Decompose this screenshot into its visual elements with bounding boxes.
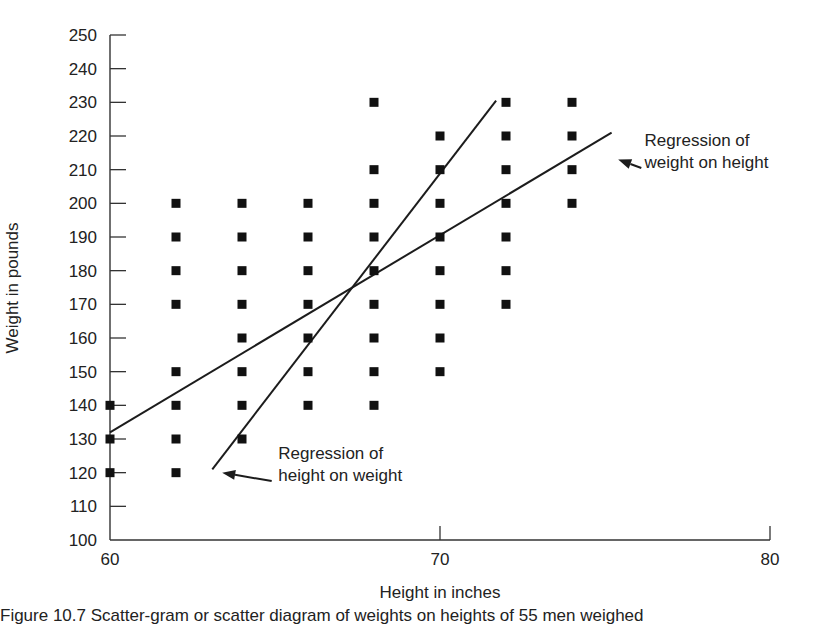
data-point bbox=[304, 401, 313, 410]
data-point bbox=[502, 199, 511, 208]
y-tick-label: 100 bbox=[69, 531, 97, 550]
regression-line bbox=[110, 133, 612, 433]
data-point bbox=[238, 334, 247, 343]
data-point bbox=[502, 165, 511, 174]
data-point bbox=[436, 199, 445, 208]
data-point bbox=[304, 300, 313, 309]
data-point bbox=[370, 300, 379, 309]
y-tick-label: 250 bbox=[69, 26, 97, 45]
data-point bbox=[370, 98, 379, 107]
data-point bbox=[502, 266, 511, 275]
y-tick-label: 180 bbox=[69, 262, 97, 281]
data-point bbox=[370, 266, 379, 275]
data-point bbox=[172, 435, 181, 444]
regression-lines bbox=[110, 101, 612, 470]
y-tick-label: 190 bbox=[69, 228, 97, 247]
data-point bbox=[172, 367, 181, 376]
data-point bbox=[370, 233, 379, 242]
y-tick-label: 170 bbox=[69, 295, 97, 314]
annotation-arrow bbox=[630, 164, 641, 168]
data-point bbox=[436, 165, 445, 174]
data-point bbox=[436, 300, 445, 309]
data-point bbox=[304, 199, 313, 208]
data-point bbox=[436, 367, 445, 376]
x-tick-label: 60 bbox=[101, 550, 120, 569]
y-tick-label: 200 bbox=[69, 194, 97, 213]
x-tick-label: 80 bbox=[761, 550, 780, 569]
data-point bbox=[370, 165, 379, 174]
data-point bbox=[172, 468, 181, 477]
data-point bbox=[502, 300, 511, 309]
y-tick-label: 230 bbox=[69, 93, 97, 112]
data-point bbox=[304, 233, 313, 242]
y-tick-label: 210 bbox=[69, 161, 97, 180]
annotation-label: weight on height bbox=[644, 153, 769, 172]
data-point bbox=[370, 401, 379, 410]
arrowhead-icon bbox=[618, 159, 632, 168]
y-tick-label: 160 bbox=[69, 329, 97, 348]
y-tick-label: 240 bbox=[69, 60, 97, 79]
annotation-label: Regression of bbox=[645, 131, 750, 150]
data-point bbox=[370, 367, 379, 376]
data-point bbox=[502, 132, 511, 141]
annotation-arrow bbox=[235, 475, 272, 481]
data-point bbox=[238, 367, 247, 376]
y-tick-label: 130 bbox=[69, 430, 97, 449]
x-axis-title: Height in inches bbox=[380, 583, 501, 602]
data-point bbox=[172, 266, 181, 275]
data-point bbox=[568, 132, 577, 141]
data-point bbox=[370, 199, 379, 208]
annotation-label: height on weight bbox=[278, 466, 402, 485]
data-point bbox=[502, 98, 511, 107]
regression-line bbox=[212, 101, 496, 470]
data-point bbox=[436, 233, 445, 242]
data-point bbox=[238, 435, 247, 444]
data-point bbox=[238, 266, 247, 275]
data-point bbox=[106, 401, 115, 410]
data-point bbox=[436, 132, 445, 141]
data-point bbox=[568, 165, 577, 174]
data-point bbox=[238, 300, 247, 309]
y-tick-label: 110 bbox=[70, 497, 97, 516]
scatter-chart: 1001101201301401501601701801902002102202… bbox=[0, 0, 814, 606]
y-axis-title: Weight in pounds bbox=[3, 222, 22, 353]
data-point bbox=[172, 401, 181, 410]
figure-caption: Figure 10.7 Scatter-gram or scatter diag… bbox=[0, 606, 814, 627]
y-tick-label: 150 bbox=[69, 363, 97, 382]
data-point bbox=[436, 334, 445, 343]
arrowhead-icon bbox=[222, 470, 236, 480]
x-tick-label: 70 bbox=[431, 550, 450, 569]
data-point bbox=[370, 334, 379, 343]
annotation-label: Regression of bbox=[278, 444, 383, 463]
data-point bbox=[172, 199, 181, 208]
data-point bbox=[106, 468, 115, 477]
data-point bbox=[106, 435, 115, 444]
data-point bbox=[304, 266, 313, 275]
data-point bbox=[568, 199, 577, 208]
data-point bbox=[238, 401, 247, 410]
data-point bbox=[304, 367, 313, 376]
axes: 1001101201301401501601701801902002102202… bbox=[69, 26, 780, 569]
y-tick-label: 120 bbox=[69, 464, 97, 483]
y-tick-label: 220 bbox=[69, 127, 97, 146]
data-point bbox=[304, 334, 313, 343]
data-point bbox=[502, 233, 511, 242]
data-point bbox=[436, 266, 445, 275]
data-point bbox=[238, 199, 247, 208]
data-point bbox=[172, 300, 181, 309]
y-tick-label: 140 bbox=[69, 396, 97, 415]
data-points bbox=[106, 98, 577, 477]
data-point bbox=[238, 233, 247, 242]
data-point bbox=[172, 233, 181, 242]
data-point bbox=[568, 98, 577, 107]
